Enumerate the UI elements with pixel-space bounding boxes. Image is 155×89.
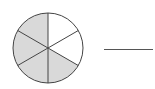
fraction-diagram xyxy=(0,0,155,89)
fraction-circle xyxy=(13,13,83,83)
